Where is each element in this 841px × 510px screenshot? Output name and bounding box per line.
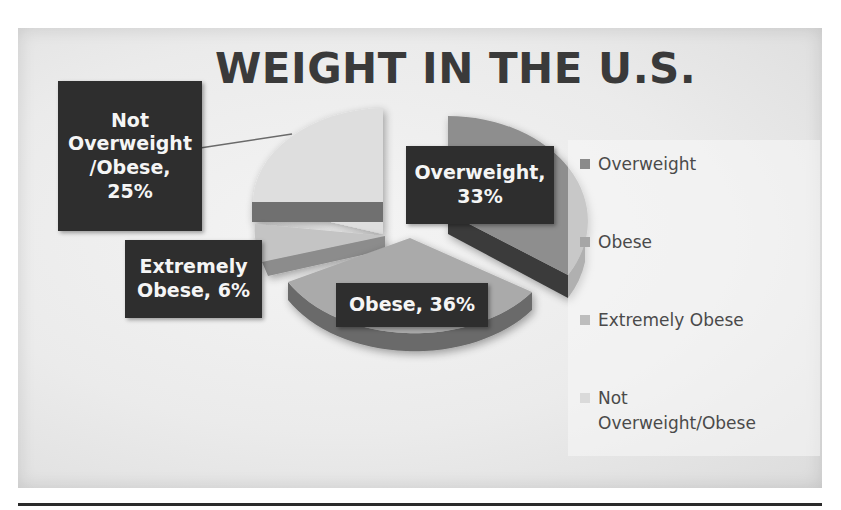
chart-legend: Overweight Obese Extremely Obese Not Ove…: [568, 140, 820, 456]
legend-swatch-icon: [580, 315, 590, 325]
label-line: Obese, 36%: [349, 293, 475, 317]
legend-item-obese: Obese: [580, 230, 652, 255]
data-label-extremely-obese: Extremely Obese, 6%: [125, 240, 262, 318]
data-label-overweight: Overweight, 33%: [406, 146, 554, 224]
legend-swatch-icon: [580, 237, 590, 247]
label-line: /Obese,: [90, 156, 171, 180]
horizontal-rule: [18, 503, 822, 506]
data-label-obese: Obese, 36%: [336, 283, 488, 327]
legend-label-line: Not: [598, 386, 756, 411]
label-line: Overweight,: [414, 161, 545, 185]
label-line: Overweight: [68, 132, 192, 156]
legend-label: Obese: [598, 230, 652, 255]
leader-line: [200, 134, 292, 148]
data-label-not-overweight: Not Overweight /Obese, 25%: [58, 81, 202, 231]
legend-label: Overweight: [598, 152, 696, 177]
legend-item-not-overweight: Not Overweight/Obese: [580, 386, 756, 435]
label-line: Obese, 6%: [137, 279, 250, 303]
legend-label-line: Overweight/Obese: [598, 411, 756, 436]
label-line: Extremely: [139, 255, 247, 279]
legend-item-extremely-obese: Extremely Obese: [580, 308, 744, 333]
label-line: Not: [111, 109, 149, 133]
legend-swatch-icon: [580, 393, 590, 403]
label-line: 25%: [107, 180, 152, 204]
legend-item-overweight: Overweight: [580, 152, 696, 177]
legend-swatch-icon: [580, 159, 590, 169]
legend-label: Extremely Obese: [598, 308, 744, 333]
slice-not-overweight: [252, 108, 383, 234]
legend-label: Not Overweight/Obese: [598, 386, 756, 435]
label-line: 33%: [457, 185, 502, 209]
